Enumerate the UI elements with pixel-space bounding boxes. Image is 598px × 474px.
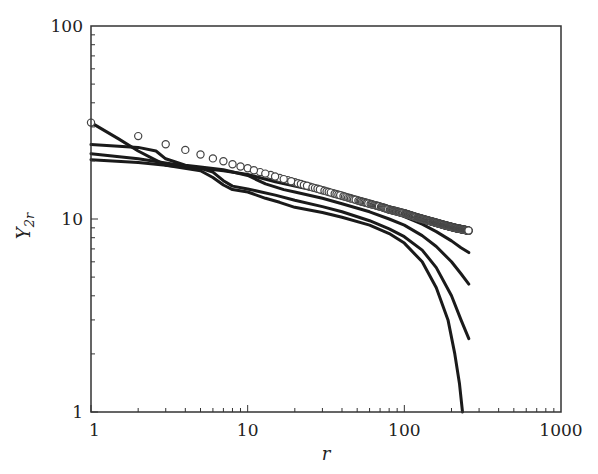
- data-marker: [182, 146, 189, 153]
- y-tick-label: 100: [51, 16, 83, 36]
- x-tick-label: 1: [89, 420, 100, 440]
- data-marker: [197, 151, 204, 158]
- y-axis-ticks: [91, 35, 98, 412]
- data-marker: [250, 167, 257, 174]
- x-tick-label: 10: [237, 420, 259, 440]
- y-axis-label: Y2r: [13, 212, 37, 239]
- y-axis-tick-labels: 110100: [51, 16, 83, 422]
- x-axis-tick-labels: 1101001000: [89, 420, 583, 440]
- data-marker: [162, 141, 169, 148]
- y-tick-label: 10: [61, 209, 83, 229]
- y-tick-label: 1: [72, 402, 83, 422]
- plot-series: [87, 119, 472, 412]
- data-marker: [220, 158, 227, 165]
- plot-frame: [91, 26, 561, 412]
- data-marker: [229, 161, 236, 168]
- data-marker: [272, 173, 279, 180]
- x-tick-label: 1000: [539, 420, 582, 440]
- data-marker: [280, 176, 287, 183]
- data-marker: [209, 155, 216, 162]
- data-marker: [135, 133, 142, 140]
- data-marker: [262, 170, 269, 177]
- x-axis-label: r: [322, 443, 332, 464]
- data-marker: [288, 178, 295, 185]
- y-axis-label-subscript: 2r: [22, 212, 37, 228]
- data-marker: [237, 163, 244, 170]
- data-line: [91, 160, 463, 412]
- chart: 1101001000 110100 r Y2r: [0, 0, 598, 474]
- x-tick-label: 100: [388, 420, 420, 440]
- data-marker: [465, 227, 472, 234]
- x-axis-ticks: [91, 405, 554, 412]
